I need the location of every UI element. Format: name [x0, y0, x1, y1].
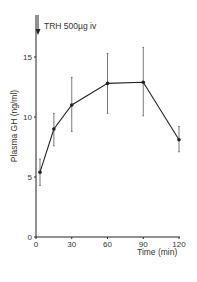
line-chart: 0510150306090120 TRH 500µg iv Time (min)…	[0, 0, 197, 282]
x-tick-label: 0	[34, 240, 39, 249]
annotation-text: TRH 500µg iv	[44, 21, 97, 31]
data-point	[38, 170, 42, 174]
error-bars	[39, 47, 180, 185]
axes	[36, 15, 180, 237]
axis-ticks: 0510150306090120	[23, 53, 186, 249]
data-series	[38, 80, 181, 174]
data-point	[177, 138, 181, 142]
y-axis-label: Plasma GH (ng/ml)	[9, 90, 19, 162]
x-tick-label: 60	[103, 240, 112, 249]
series-line	[40, 82, 179, 172]
data-point	[141, 80, 145, 84]
annotation: TRH 500µg iv	[36, 15, 97, 35]
data-point	[106, 82, 110, 86]
y-tick-label: 0	[28, 233, 33, 242]
x-tick-label: 30	[67, 240, 76, 249]
y-tick-label: 10	[23, 113, 32, 122]
data-point	[52, 127, 56, 131]
data-point	[70, 103, 74, 107]
y-tick-label: 5	[28, 173, 33, 182]
x-axis-label: Time (min)	[137, 247, 177, 257]
y-tick-label: 15	[23, 53, 32, 62]
